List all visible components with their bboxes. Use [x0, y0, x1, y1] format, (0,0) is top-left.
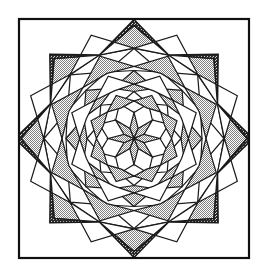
- quilt-block-svg: [0, 0, 265, 277]
- star-patchwork-group: [15, 20, 253, 258]
- quilt-block-figure: [0, 0, 265, 277]
